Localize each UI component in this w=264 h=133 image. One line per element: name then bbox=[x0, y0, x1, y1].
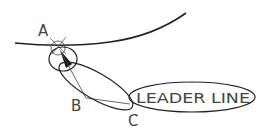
leader-line-diagram: A B C LEADER LINE bbox=[0, 0, 264, 133]
label-point-a: A bbox=[38, 22, 49, 40]
label-point-c: C bbox=[128, 112, 138, 130]
diagram-svg: A B C LEADER LINE bbox=[0, 0, 264, 133]
label-point-b: B bbox=[71, 97, 81, 115]
leader-line-text: LEADER LINE bbox=[136, 90, 250, 106]
